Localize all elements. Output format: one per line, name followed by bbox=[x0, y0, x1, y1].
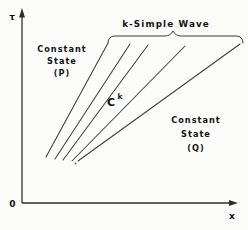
tau-axis-arrow-icon bbox=[19, 8, 25, 18]
region-p-line2: State bbox=[47, 56, 77, 66]
ck-label: C k bbox=[107, 92, 124, 110]
region-q-line3: (Q) bbox=[187, 143, 204, 153]
x-axis-label: x bbox=[229, 211, 235, 221]
ck-superscript: k bbox=[118, 92, 124, 101]
tau-axis-label: τ bbox=[9, 12, 15, 22]
region-p-line1: Constant bbox=[37, 44, 87, 54]
region-q-line1: Constant bbox=[171, 115, 221, 125]
characteristic-line bbox=[78, 44, 240, 161]
ck-base: C bbox=[107, 96, 115, 109]
x-axis-arrow-icon bbox=[229, 200, 238, 206]
wave-brace bbox=[108, 31, 243, 43]
simple-wave-diagram: τ 0 x k-Simple Wave Constant State (P) C… bbox=[0, 0, 248, 230]
characteristic-line bbox=[72, 46, 185, 161]
diagram-canvas: τ 0 x k-Simple Wave Constant State (P) C… bbox=[0, 0, 248, 230]
region-label-q: Constant State (Q) bbox=[171, 115, 221, 153]
fan-origin-dot bbox=[75, 163, 77, 165]
region-p-line3: (P) bbox=[54, 68, 71, 78]
wave-title: k-Simple Wave bbox=[122, 19, 210, 29]
region-q-line2: State bbox=[181, 129, 211, 139]
region-label-p: Constant State (P) bbox=[37, 44, 87, 78]
origin-label: 0 bbox=[9, 199, 15, 209]
